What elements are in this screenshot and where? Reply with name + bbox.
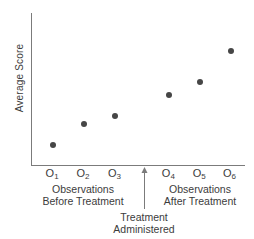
x-tick-label-o3: O3 [108, 167, 121, 179]
data-point-o5 [197, 79, 203, 85]
data-point-o3 [112, 113, 118, 119]
x-tick-label-o2: O2 [76, 167, 89, 179]
time-series-design-figure: Average Score O1O2O3O4O5O6 Observations … [0, 0, 254, 239]
treatment-arrow [141, 167, 148, 209]
treatment-administered-label-line1: Treatment [113, 211, 174, 223]
x-tick-label-o6: O6 [223, 167, 236, 179]
data-point-o2 [81, 121, 87, 127]
arrow-line [144, 172, 145, 209]
x-tick-label-o4: O4 [162, 167, 175, 179]
before-treatment-label-line1: Observations [42, 183, 123, 195]
y-axis-label: Average Score [14, 44, 25, 113]
after-treatment-label-line2: After Treatment [164, 195, 236, 207]
data-point-o6 [228, 48, 234, 54]
treatment-administered-label: Treatment Administered [113, 211, 174, 235]
before-treatment-label-line2: Before Treatment [42, 195, 123, 207]
x-tick-label-o1: O1 [46, 167, 59, 179]
after-treatment-label: Observations After Treatment [164, 183, 236, 207]
after-treatment-label-line1: Observations [164, 183, 236, 195]
plot-area [31, 13, 245, 166]
treatment-administered-label-line2: Administered [113, 223, 174, 235]
data-point-o4 [166, 92, 172, 98]
data-point-o1 [50, 142, 56, 148]
before-treatment-label: Observations Before Treatment [42, 183, 123, 207]
x-tick-label-o5: O5 [193, 167, 206, 179]
